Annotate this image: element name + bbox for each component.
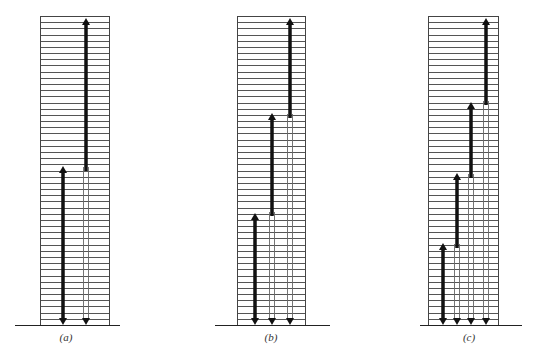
- panel-label-b: (b): [265, 331, 278, 343]
- arrow-up-head-icon: [82, 18, 90, 25]
- panel-b: [215, 17, 330, 326]
- arrow-up-head-icon: [439, 243, 447, 250]
- arrow-down-head-icon: [59, 318, 67, 325]
- arrow-down-head-icon: [482, 318, 490, 325]
- arrow-down-head-icon: [439, 318, 447, 325]
- panel-label-a: (a): [60, 331, 73, 343]
- arrow-down-head-icon: [286, 318, 294, 325]
- arrow-down-head-icon: [82, 318, 90, 325]
- arrow-down-head-icon: [268, 318, 276, 325]
- stacked-layer-diagram: [0, 0, 538, 355]
- arrow-up-head-icon: [482, 18, 490, 25]
- arrow-up-head-icon: [453, 173, 461, 180]
- panel-label-c: (c): [463, 331, 475, 343]
- arrow-up-head-icon: [268, 113, 276, 120]
- layer-lines: [40, 17, 109, 326]
- arrow-down-head-icon: [251, 318, 259, 325]
- arrow-up-head-icon: [59, 166, 67, 173]
- panel-c: [420, 17, 522, 326]
- arrow-down-head-icon: [453, 318, 461, 325]
- arrow-3: [467, 102, 475, 325]
- arrow-2: [268, 113, 276, 325]
- arrow-up-head-icon: [286, 18, 294, 25]
- arrow-1: [439, 243, 447, 325]
- arrow-down-head-icon: [467, 318, 475, 325]
- panel-a: [15, 17, 120, 326]
